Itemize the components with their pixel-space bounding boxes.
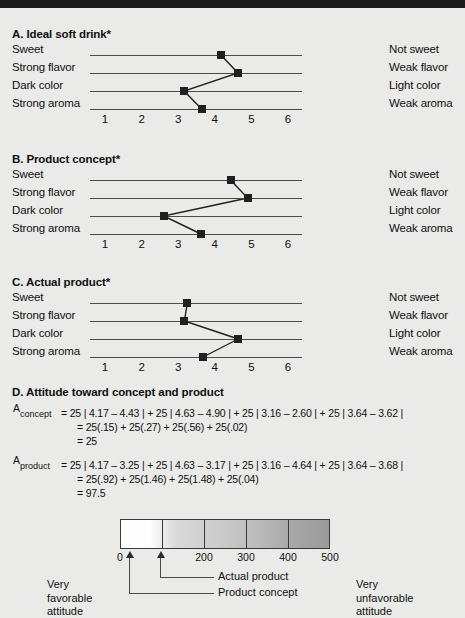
chart-b-marker-2 [160, 212, 168, 220]
chart-b-marker-0 [227, 176, 235, 184]
scale-divider-200 [204, 519, 205, 549]
chart-c-left-label-1: Strong flavor [12, 309, 75, 321]
a-product-subscript: product [20, 461, 50, 471]
scale-divider-100 [162, 519, 163, 549]
chart-c-left-label-3: Strong aroma [12, 345, 80, 357]
chart-c-left-label-0: Sweet [12, 291, 43, 303]
chart-panel-a: A. Ideal soft drink* SweetNot sweetStron… [0, 28, 465, 138]
chart-b-tick-5: 5 [241, 238, 261, 250]
chart-c-tick-5: 5 [241, 361, 261, 373]
chart-c-axis-line-2 [90, 339, 302, 340]
chart-a-marker-2 [180, 87, 188, 95]
a-product-line-3: = 97.5 [77, 487, 105, 499]
scale-left-label-line1: Very [47, 578, 92, 592]
chart-c-axis-line-0 [90, 303, 302, 304]
chart-a-left-label-0: Sweet [12, 43, 43, 55]
chart-c-tick-1: 1 [95, 361, 115, 373]
attitude-gradient-bar [120, 519, 330, 549]
scale-tick-500: 500 [317, 551, 343, 563]
chart-b-left-label-0: Sweet [12, 168, 43, 180]
scale-tick-200: 200 [191, 551, 217, 563]
chart-a-marker-1 [234, 69, 242, 77]
chart-b-left-label-1: Strong flavor [12, 186, 75, 198]
leadline-product-concept-vertical [129, 558, 130, 594]
chart-a-tick-5: 5 [241, 113, 261, 125]
chart-c-tick-4: 4 [205, 361, 225, 373]
chart-a-marker-0 [217, 51, 225, 59]
chart-a-left-label-1: Strong flavor [12, 61, 75, 73]
chart-c-tick-6: 6 [278, 361, 298, 373]
chart-a-right-label-3: Weak aroma [389, 97, 452, 109]
a-concept-line-1: = 25 | 4.17 – 4.43 | + 25 | 4.63 – 4.90 … [61, 407, 403, 419]
arrow-actual-product [157, 551, 165, 558]
chart-b-marker-3 [197, 230, 205, 238]
scale-tick-0: 0 [107, 551, 133, 563]
chart-a-axis-line-2 [90, 91, 302, 92]
chart-a-right-label-2: Light color [389, 79, 440, 91]
chart-a-tick-6: 6 [278, 113, 298, 125]
top-dark-bar [0, 0, 465, 8]
chart-b-title: B. Product concept* [12, 153, 120, 165]
chart-b-marker-1 [244, 194, 252, 202]
chart-b-axis-line-1 [90, 198, 302, 199]
scale-tick-400: 400 [275, 551, 301, 563]
section-d-title: D. Attitude toward concept and product [12, 386, 224, 398]
chart-c-tick-2: 2 [132, 361, 152, 373]
a-product-line-1: = 25 | 4.17 – 3.25 | + 25 | 4.63 – 3.17 … [61, 459, 403, 471]
a-concept-line-2: = 25(.15) + 25(.27) + 25(.56) + 25(.02) [77, 421, 247, 433]
chart-c-title: C. Actual product* [12, 276, 110, 288]
chart-c-right-label-2: Light color [389, 327, 440, 339]
chart-c-right-label-1: Weak flavor [389, 309, 448, 321]
chart-b-left-label-2: Dark color [12, 204, 63, 216]
chart-a-left-label-3: Strong aroma [12, 97, 80, 109]
chart-b-right-label-2: Light color [389, 204, 440, 216]
leadline-actual-product-horizontal [160, 577, 214, 578]
chart-c-axis-line-3 [90, 357, 302, 358]
chart-b-tick-6: 6 [278, 238, 298, 250]
chart-c-axis-line-1 [90, 321, 302, 322]
scale-left-label-line3: attitude [47, 605, 92, 618]
chart-c-marker-3 [199, 353, 207, 361]
chart-b-tick-2: 2 [132, 238, 152, 250]
callout-product-concept: Product concept [218, 586, 298, 598]
chart-b-tick-4: 4 [205, 238, 225, 250]
chart-a-right-label-0: Not sweet [389, 43, 439, 55]
chart-b-right-label-0: Not sweet [389, 168, 439, 180]
chart-panel-c: C. Actual product* SweetNot sweetStrong … [0, 276, 465, 386]
chart-b-tick-3: 3 [168, 238, 188, 250]
chart-a-tick-1: 1 [95, 113, 115, 125]
callout-actual-product: Actual product [218, 570, 288, 582]
chart-a-axis-line-1 [90, 73, 302, 74]
chart-b-right-label-3: Weak aroma [389, 222, 452, 234]
chart-b-tick-1: 1 [95, 238, 115, 250]
chart-c-marker-1 [180, 317, 188, 325]
a-product-line-2: = 25(.92) + 25(1.46) + 25(1.48) + 25(.04… [77, 473, 259, 485]
chart-panel-b: B. Product concept* SweetNot sweetStrong… [0, 153, 465, 263]
leadline-product-concept-horizontal [129, 593, 214, 594]
a-concept-symbol: A [13, 402, 20, 414]
scale-right-label-line3: attitude [356, 605, 414, 618]
chart-a-title: A. Ideal soft drink* [12, 28, 111, 40]
chart-c-right-label-0: Not sweet [389, 291, 439, 303]
chart-c-marker-2 [234, 335, 242, 343]
chart-a-tick-3: 3 [168, 113, 188, 125]
chart-b-left-label-3: Strong aroma [12, 222, 80, 234]
chart-a-tick-4: 4 [205, 113, 225, 125]
scale-left-label: Very favorable attitude [47, 578, 92, 618]
scale-divider-300 [246, 519, 247, 549]
scale-tick-300: 300 [233, 551, 259, 563]
scale-divider-400 [288, 519, 289, 549]
scale-right-label: Very unfavorable attitude [356, 578, 414, 618]
chart-c-tick-3: 3 [168, 361, 188, 373]
chart-c-right-label-3: Weak aroma [389, 345, 452, 357]
scale-left-label-line2: favorable [47, 592, 92, 606]
scale-right-label-line2: unfavorable [356, 592, 414, 606]
scale-right-label-line1: Very [356, 578, 414, 592]
figure-page: A. Ideal soft drink* SweetNot sweetStron… [0, 8, 465, 618]
chart-a-tick-2: 2 [132, 113, 152, 125]
chart-b-right-label-1: Weak flavor [389, 186, 448, 198]
chart-a-axis-line-0 [90, 55, 302, 56]
a-concept-subscript: concept [20, 409, 52, 419]
chart-c-marker-0 [183, 299, 191, 307]
chart-a-marker-3 [198, 105, 206, 113]
